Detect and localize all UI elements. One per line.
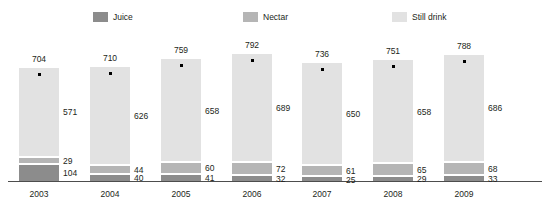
total-marker-dot-icon <box>392 65 395 68</box>
total-marker-dot-icon <box>321 68 324 71</box>
bar-group[interactable]: 25616507362007 <box>302 0 342 203</box>
total-marker-dot-icon <box>38 73 41 76</box>
segment-value-label: 571 <box>63 107 77 117</box>
bar-total-label: 710 <box>90 53 130 63</box>
segment-value-label: 41 <box>205 173 214 183</box>
bar-segment-juice[interactable] <box>444 176 484 181</box>
x-axis-tick-label: 2008 <box>373 189 413 199</box>
segment-value-label: 626 <box>134 111 148 121</box>
bar-total-label: 736 <box>302 49 342 59</box>
segment-value-label: 29 <box>63 156 72 166</box>
segment-value-label: 658 <box>205 106 219 116</box>
segment-value-label: 650 <box>346 109 360 119</box>
x-axis-tick-label: 2006 <box>232 189 272 199</box>
bar-segment-nectar[interactable] <box>90 166 130 173</box>
bar-segment-still-drink[interactable] <box>373 60 413 162</box>
bar-segment-juice[interactable] <box>373 177 413 182</box>
segment-value-label: 658 <box>417 107 431 117</box>
segment-value-label: 25 <box>346 175 355 185</box>
bar-segment-juice[interactable] <box>90 175 130 181</box>
bar-segment-juice[interactable] <box>302 177 342 181</box>
bar-segment-nectar[interactable] <box>373 164 413 174</box>
total-marker-dot-icon <box>251 59 254 62</box>
bar-segment-nectar[interactable] <box>302 166 342 175</box>
total-marker-dot-icon <box>463 60 466 63</box>
plot-area: 1042957170420034044626710200441606587592… <box>0 0 550 203</box>
bar-group[interactable]: 40446267102004 <box>90 0 130 203</box>
stacked-bar-chart: JuiceNectarStill drink 10429571704200340… <box>0 0 550 203</box>
segment-value-label: 40 <box>134 173 143 183</box>
segment-value-label: 44 <box>134 165 143 175</box>
segment-value-label: 60 <box>205 163 214 173</box>
segment-value-label: 689 <box>276 103 290 113</box>
bar-total-label: 759 <box>161 45 201 55</box>
bar-group[interactable]: 32726897922006 <box>232 0 272 203</box>
bar-segment-still-drink[interactable] <box>161 59 201 161</box>
x-axis-tick-label: 2009 <box>444 189 484 199</box>
bar-total-label: 788 <box>444 41 484 51</box>
segment-value-label: 65 <box>417 165 426 175</box>
bar-segment-nectar[interactable] <box>232 163 272 174</box>
bar-group[interactable]: 33686867882009 <box>444 0 484 203</box>
segment-value-label: 104 <box>63 168 77 178</box>
bar-segment-juice[interactable] <box>161 175 201 181</box>
segment-value-label: 61 <box>346 166 355 176</box>
bar-segment-juice[interactable] <box>232 176 272 181</box>
bar-segment-nectar[interactable] <box>161 163 201 172</box>
bar-segment-still-drink[interactable] <box>302 63 342 164</box>
bar-group[interactable]: 104295717042003 <box>19 0 59 203</box>
x-axis-tick-label: 2003 <box>19 189 59 199</box>
bar-segment-juice[interactable] <box>19 165 59 181</box>
bar-total-label: 704 <box>19 54 59 64</box>
total-marker-dot-icon <box>180 64 183 67</box>
x-axis-tick-label: 2005 <box>161 189 201 199</box>
bar-segment-still-drink[interactable] <box>90 67 130 164</box>
segment-value-label: 29 <box>417 174 426 184</box>
segment-value-label: 68 <box>488 164 497 174</box>
segment-value-label: 72 <box>276 164 285 174</box>
x-axis-tick-label: 2004 <box>90 189 130 199</box>
x-axis-tick-label: 2007 <box>302 189 342 199</box>
bar-segment-still-drink[interactable] <box>19 68 59 157</box>
bar-group[interactable]: 29656587512008 <box>373 0 413 203</box>
segment-value-label: 686 <box>488 103 502 113</box>
bar-segment-still-drink[interactable] <box>444 55 484 162</box>
bar-total-label: 792 <box>232 40 272 50</box>
total-marker-dot-icon <box>109 72 112 75</box>
bar-segment-still-drink[interactable] <box>232 54 272 161</box>
bar-group[interactable]: 41606587592005 <box>161 0 201 203</box>
bar-total-label: 751 <box>373 46 413 56</box>
bar-segment-nectar[interactable] <box>19 158 59 163</box>
bar-segment-nectar[interactable] <box>444 163 484 174</box>
segment-value-label: 33 <box>488 174 497 184</box>
segment-value-label: 32 <box>276 174 285 184</box>
